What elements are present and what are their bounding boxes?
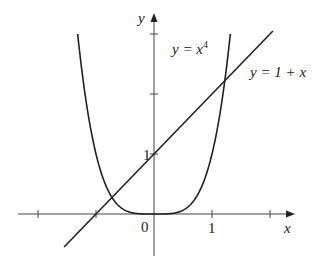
graph-canvas: y x 0 1 1 y = x4 y = 1 + x — [0, 0, 320, 258]
x-axis-arrow-icon — [286, 211, 295, 218]
x-tick-label-1: 1 — [208, 220, 216, 236]
quartic-label: y = x4 — [170, 39, 208, 57]
quartic-label-exponent: 4 — [203, 39, 208, 50]
line-one-plus-x — [64, 31, 273, 247]
y-axis-label: y — [136, 10, 145, 26]
labels: y x 0 1 1 y = x4 y = 1 + x — [136, 10, 306, 236]
linear-label: y = 1 + x — [248, 64, 306, 80]
quartic-label-main: y = x — [170, 41, 203, 57]
y-tick-label-1: 1 — [143, 147, 151, 163]
origin-label: 0 — [141, 219, 149, 235]
axes — [18, 13, 295, 256]
curves — [64, 31, 273, 247]
x-axis-label: x — [283, 220, 291, 236]
y-axis-arrow-icon — [151, 13, 158, 22]
